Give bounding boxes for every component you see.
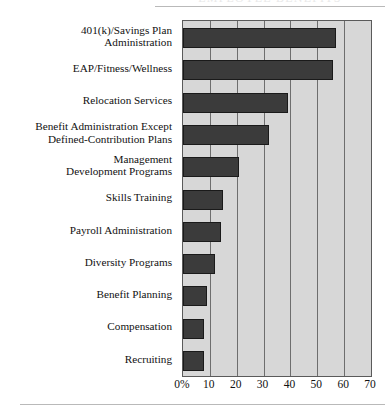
category-label: Diversity Programs bbox=[0, 256, 176, 269]
category-label-line: Administration bbox=[0, 36, 172, 49]
category-label-line: Payroll Administration bbox=[0, 224, 172, 237]
category-label-line: Compensation bbox=[0, 320, 172, 333]
gridline bbox=[344, 21, 345, 376]
bar bbox=[183, 286, 207, 306]
category-label: Recruiting bbox=[0, 353, 176, 366]
category-label: Relocation Services bbox=[0, 94, 176, 107]
category-label-line: Benefit Planning bbox=[0, 288, 172, 301]
bottom-divider-rule bbox=[20, 404, 385, 405]
category-label-line: Skills Training bbox=[0, 191, 172, 204]
bar bbox=[183, 351, 204, 371]
category-label-line: Development Programs bbox=[0, 165, 172, 178]
bar bbox=[183, 93, 288, 113]
category-label-line: EAP/Fitness/Wellness bbox=[0, 62, 172, 75]
category-label-line: Recruiting bbox=[0, 353, 172, 366]
category-label-line: Management bbox=[0, 153, 172, 166]
category-label: EAP/Fitness/Wellness bbox=[0, 62, 176, 75]
category-label: Payroll Administration bbox=[0, 224, 176, 237]
bar bbox=[183, 254, 215, 274]
bar bbox=[183, 28, 336, 48]
category-label: Benefit Planning bbox=[0, 288, 176, 301]
category-label: 401(k)/Savings PlanAdministration bbox=[0, 24, 176, 49]
figure-container: EMPLOYEE BENEFITS 401(k)/Savings PlanAdm… bbox=[0, 0, 385, 414]
bar bbox=[183, 60, 333, 80]
bar bbox=[183, 125, 269, 145]
bar bbox=[183, 319, 204, 339]
category-label-line: Diversity Programs bbox=[0, 256, 172, 269]
category-label-line: Defined-Contribution Plans bbox=[0, 133, 172, 146]
plot-area bbox=[182, 20, 372, 377]
category-label: ManagementDevelopment Programs bbox=[0, 153, 176, 178]
category-label-line: Benefit Administration Except bbox=[0, 120, 172, 133]
category-label: Skills Training bbox=[0, 191, 176, 204]
top-divider-rule bbox=[155, 6, 385, 7]
category-label: Benefit Administration ExceptDefined-Con… bbox=[0, 120, 176, 145]
category-label: Compensation bbox=[0, 320, 176, 333]
clipped-title: EMPLOYEE BENEFITS bbox=[155, 0, 385, 5]
bar bbox=[183, 157, 239, 177]
bar bbox=[183, 222, 221, 242]
x-tick-label: 70 bbox=[353, 378, 385, 390]
category-label-column: 401(k)/Savings PlanAdministrationEAP/Fit… bbox=[0, 20, 176, 375]
category-label-line: 401(k)/Savings Plan bbox=[0, 24, 172, 37]
bar-chart: 401(k)/Savings PlanAdministrationEAP/Fit… bbox=[0, 12, 385, 402]
bar bbox=[183, 190, 223, 210]
category-label-line: Relocation Services bbox=[0, 94, 172, 107]
